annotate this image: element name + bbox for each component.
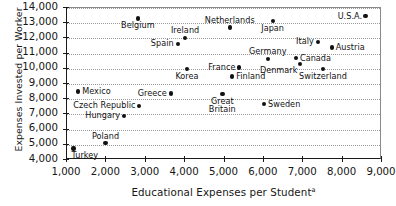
y-tick-mark	[63, 53, 69, 54]
data-point-label: Korea	[175, 72, 198, 81]
x-tick-mark	[66, 156, 67, 162]
x-tick-mark	[105, 156, 106, 162]
y-tick-mark	[63, 144, 69, 145]
y-tick-mark	[63, 83, 69, 84]
data-point-label: Italy	[296, 37, 314, 46]
x-tick-mark	[342, 156, 343, 162]
data-point-label: Austria	[336, 43, 365, 52]
x-axis-title-superscript: a	[312, 186, 316, 194]
data-point	[103, 141, 107, 145]
y-tick-mark	[63, 7, 69, 8]
data-point-label: Mexico	[82, 87, 111, 96]
y-tick-mark	[63, 98, 69, 99]
data-point-label: Spain	[151, 39, 174, 48]
x-tick-mark	[224, 156, 225, 162]
data-point	[169, 91, 173, 95]
y-tick-label: 5,000	[0, 137, 58, 148]
x-tick-label: 9,000	[351, 166, 396, 177]
data-point-label: Belgium	[121, 21, 155, 30]
data-point-label: Ireland	[171, 26, 199, 35]
y-tick-mark	[63, 129, 69, 130]
data-point-label: Canada	[300, 54, 331, 63]
y-tick-mark	[63, 68, 69, 69]
data-point-label: Poland	[92, 132, 119, 141]
y-tick-label: 9,000	[0, 77, 58, 88]
data-point-label: Turkey	[71, 151, 98, 160]
data-point	[176, 42, 180, 46]
data-point-label: Germany	[249, 47, 287, 56]
data-point-label: Sweden	[268, 100, 300, 109]
data-point-label: U.S.A.	[338, 12, 362, 21]
y-tick-label: 12,000	[0, 31, 58, 42]
y-tick-label: 10,000	[0, 61, 58, 72]
data-point	[183, 36, 187, 40]
x-axis-title-text: Educational Expenses per Student	[131, 186, 311, 198]
data-point-label: France	[208, 63, 235, 72]
data-point	[330, 45, 334, 49]
x-tick-mark	[263, 156, 264, 162]
x-tick-mark	[145, 156, 146, 162]
x-tick-mark	[184, 156, 185, 162]
data-point-label: GreatBritain	[209, 97, 236, 114]
data-point	[363, 14, 367, 18]
data-point-label: Greece	[138, 89, 167, 98]
y-tick-label: 8,000	[0, 92, 58, 103]
data-point-label: Finland	[236, 72, 265, 81]
y-tick-label: 14,000	[0, 1, 58, 12]
gridline-y	[67, 54, 380, 55]
y-tick-label: 6,000	[0, 122, 58, 133]
x-tick-mark	[381, 156, 382, 162]
y-tick-mark	[63, 22, 69, 23]
data-point-label: Denmark	[260, 66, 298, 75]
data-point-label: Japan	[261, 24, 284, 33]
y-tick-label: 4,000	[0, 153, 58, 164]
y-tick-label: 11,000	[0, 46, 58, 57]
data-point-label: Switzerland	[299, 72, 347, 81]
gridline-y	[67, 8, 380, 9]
scatter-chart-figure: Expenses Invested per Worker Educational…	[0, 0, 396, 206]
x-axis-title: Educational Expenses per Studenta	[66, 186, 381, 198]
gridline-y	[67, 145, 380, 146]
x-tick-mark	[302, 156, 303, 162]
data-point-label: Czech Republic	[73, 101, 135, 110]
y-tick-mark	[63, 37, 69, 38]
y-tick-label: 13,000	[0, 16, 58, 27]
gridline-y	[67, 38, 380, 39]
gridline-y	[67, 84, 380, 85]
data-point-label: Hungary	[85, 111, 120, 120]
y-tick-label: 7,000	[0, 107, 58, 118]
data-point	[228, 25, 232, 29]
y-tick-mark	[63, 113, 69, 114]
data-point-label: Netherlands	[205, 16, 255, 25]
